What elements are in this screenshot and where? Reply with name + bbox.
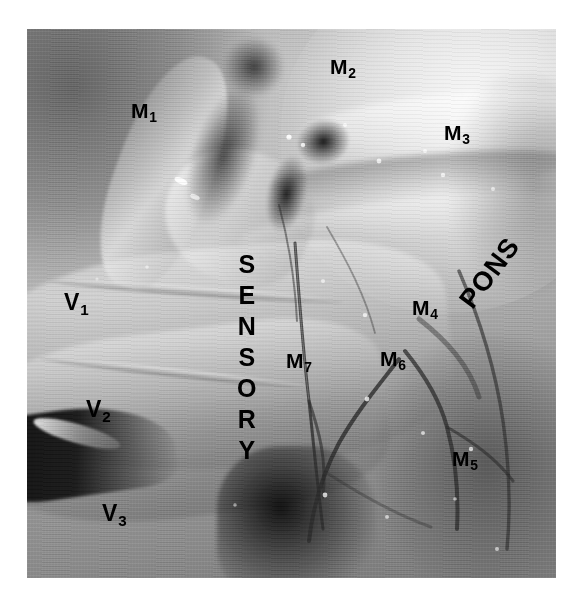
label-m3: M3 xyxy=(444,122,470,143)
anatomical-photograph: M1 M2 M3 M4 M5 M6 M7 V1 V2 V3 xyxy=(27,29,556,578)
label-m1: M1 xyxy=(131,100,157,121)
rootlet-m5-path xyxy=(405,351,458,529)
label-v3-letter: V xyxy=(102,500,118,526)
label-m3-sub: 3 xyxy=(462,131,470,147)
label-v2: V2 xyxy=(86,398,110,421)
label-v3: V3 xyxy=(102,502,126,525)
figure-container: M1 M2 M3 M4 M5 M6 M7 V1 V2 V3 xyxy=(0,0,578,607)
label-m7: M7 xyxy=(286,350,312,371)
label-m2-letter: M xyxy=(330,55,348,78)
label-m1-letter: M xyxy=(131,99,149,122)
label-m4: M4 xyxy=(412,297,438,318)
sensory-letter-4: S xyxy=(238,342,255,373)
sensory-letter-3: N xyxy=(238,311,256,342)
label-m6-sub: 6 xyxy=(398,357,406,373)
label-m5: M5 xyxy=(452,448,478,469)
label-m2: M2 xyxy=(330,56,356,77)
label-m5-sub: 5 xyxy=(470,457,478,473)
label-m4-letter: M xyxy=(412,296,430,319)
label-m4-sub: 4 xyxy=(430,306,438,322)
rootlet-m4-path xyxy=(459,271,509,549)
label-m2-sub: 2 xyxy=(348,65,356,81)
label-m1-sub: 1 xyxy=(149,109,157,125)
label-m6: M6 xyxy=(380,348,406,369)
label-v2-sub: 2 xyxy=(102,408,111,425)
label-v1-sub: 1 xyxy=(80,301,89,318)
sensory-letter-2: E xyxy=(238,280,255,311)
label-v1: V1 xyxy=(64,291,88,314)
sensory-letter-5: O xyxy=(237,373,256,404)
label-m6-letter: M xyxy=(380,347,398,370)
label-v2-letter: V xyxy=(86,396,102,422)
label-sensory-root: S E N S O R Y xyxy=(237,249,256,466)
label-m3-letter: M xyxy=(444,121,462,144)
label-m7-sub: 7 xyxy=(304,359,312,375)
label-m7-letter: M xyxy=(286,349,304,372)
label-v1-letter: V xyxy=(64,289,80,315)
sensory-letter-6: R xyxy=(238,404,256,435)
sensory-letter-7: Y xyxy=(238,435,255,466)
sensory-letter-1: S xyxy=(238,249,255,280)
label-v3-sub: 3 xyxy=(118,512,127,529)
label-m5-letter: M xyxy=(452,447,470,470)
